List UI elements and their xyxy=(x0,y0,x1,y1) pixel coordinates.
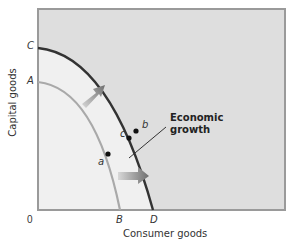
annotation-line1: Economic xyxy=(170,112,223,124)
y-axis-title: Capital goods xyxy=(7,68,18,136)
point-c-label: c xyxy=(120,128,126,139)
x-axis-title: Consumer goods xyxy=(123,228,207,239)
ppc-diagram: C A 0 B D Consumer goods Capital goods a… xyxy=(0,0,293,244)
x-tick-B: B xyxy=(116,214,123,225)
point-a-dot xyxy=(105,151,110,156)
y-tick-C: C xyxy=(27,40,34,51)
origin-label: 0 xyxy=(27,214,33,225)
y-tick-A: A xyxy=(27,75,34,86)
point-c-dot xyxy=(126,135,131,140)
x-tick-D: D xyxy=(150,214,158,225)
point-b-dot xyxy=(133,128,138,133)
point-b-label: b xyxy=(142,119,148,130)
point-a-label: a xyxy=(98,156,104,167)
economic-growth-annotation: Economic growth xyxy=(170,112,223,136)
annotation-line2: growth xyxy=(170,124,223,136)
